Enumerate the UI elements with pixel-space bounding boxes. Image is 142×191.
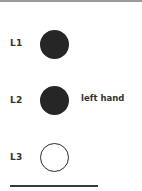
bottom-rule bbox=[10, 185, 98, 187]
empty-circle-l3 bbox=[40, 143, 69, 172]
top-border bbox=[0, 0, 142, 2]
filled-circle-l2 bbox=[40, 86, 69, 115]
row-label-l3: L3 bbox=[10, 152, 23, 162]
row-label-l1: L1 bbox=[10, 38, 23, 48]
annotation-left-hand: left hand bbox=[81, 93, 124, 103]
row-label-l2: L2 bbox=[10, 95, 23, 105]
filled-circle-l1 bbox=[40, 30, 69, 59]
